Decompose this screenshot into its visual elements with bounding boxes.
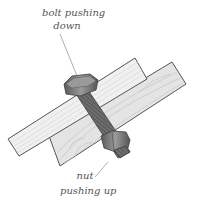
bolt-label-line1: bolt pushing (42, 7, 92, 19)
bolt-leader-line (60, 34, 77, 76)
nut-label-line2: pushing up (60, 185, 104, 197)
bolt-diagram: bolt pushing down nut pushing up (0, 0, 202, 212)
diagram-drawing (0, 0, 202, 212)
nut-label-line1: nut (72, 170, 98, 182)
bolt-label-line2: down (52, 20, 82, 32)
